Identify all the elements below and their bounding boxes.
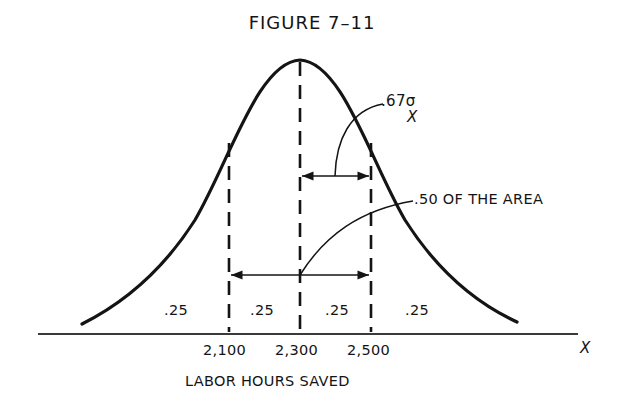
- figure-title: FIGURE 7–11: [0, 12, 624, 33]
- x-axis-label: LABOR HOURS SAVED: [185, 373, 350, 389]
- area-label: .50 OF THE AREA: [414, 191, 543, 207]
- x-axis-symbol: X: [580, 339, 591, 357]
- region-label-3: .25: [325, 302, 349, 318]
- tick-label-2500: 2,500: [347, 342, 390, 358]
- tick-label-2100: 2,100: [203, 342, 246, 358]
- half-area-leader-line: [300, 201, 413, 275]
- region-label-2: .25: [250, 302, 274, 318]
- region-label-1: .25: [164, 302, 188, 318]
- normal-distribution-figure: FIGURE 7–11 .67σ X .50 OF THE AREA .25 .…: [0, 0, 624, 409]
- tick-label-2300: 2,300: [275, 342, 318, 358]
- region-label-4: .25: [405, 302, 429, 318]
- sigma-subscript: X: [407, 108, 418, 126]
